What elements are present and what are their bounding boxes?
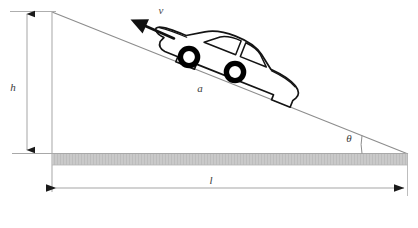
velocity-label: v (159, 4, 164, 16)
diagram-canvas: h l θ (0, 0, 418, 228)
height-dimension: h (10, 12, 56, 151)
car (147, 8, 310, 109)
height-label: h (10, 81, 16, 93)
length-dimension: l (56, 174, 404, 188)
inclined-plane-diagram: h l θ (0, 0, 418, 228)
ground-hatched-bar (52, 154, 408, 165)
car-body-outline (147, 8, 310, 109)
acceleration-label: a (197, 82, 203, 94)
angle-label: θ (346, 132, 352, 144)
length-label: l (209, 174, 212, 186)
angle-arc (361, 136, 362, 154)
